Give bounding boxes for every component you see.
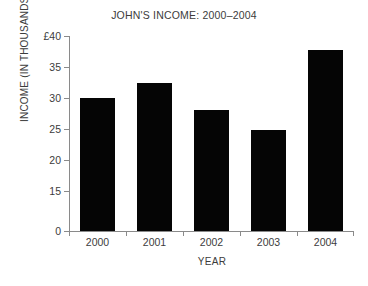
plot-area: £4035302520150 20002001200220032004 — [69, 34, 354, 232]
bar-2003 — [251, 130, 286, 231]
x-tick-label-2004: 2004 — [314, 236, 337, 248]
y-tick-label: 20 — [49, 154, 61, 166]
x-tick-label-2003: 2003 — [257, 236, 280, 248]
x-tick-label-2000: 2000 — [86, 236, 109, 248]
y-tick-mark — [64, 191, 70, 192]
bar-chart: JOHN'S INCOME: 2000–2004 INCOME (IN THOU… — [0, 0, 368, 286]
bar-2004 — [308, 50, 343, 231]
bar-2001 — [137, 83, 172, 232]
x-tick-mark — [353, 231, 354, 236]
y-tick-label: 15 — [49, 185, 61, 197]
y-tick-mark — [64, 98, 70, 99]
x-tick-mark — [240, 231, 241, 236]
y-tick-mark — [64, 160, 70, 161]
y-axis-title: INCOME (IN THOUSANDS) — [19, 0, 30, 148]
bar-2000 — [80, 98, 115, 231]
x-axis-line — [69, 231, 354, 232]
x-axis-title: YEAR — [68, 256, 356, 267]
y-tick-mark — [64, 36, 70, 37]
y-tick-label: 25 — [49, 123, 61, 135]
y-tick-label: 30 — [49, 92, 61, 104]
y-tick-label: £40 — [43, 30, 61, 42]
y-tick-mark — [64, 129, 70, 130]
x-tick-mark — [69, 231, 70, 236]
bar-2002 — [194, 110, 229, 231]
x-tick-mark — [297, 231, 298, 236]
y-tick-label: 35 — [49, 61, 61, 73]
x-tick-label-2001: 2001 — [143, 236, 166, 248]
chart-title: JOHN'S INCOME: 2000–2004 — [0, 9, 368, 21]
x-tick-label-2002: 2002 — [200, 236, 223, 248]
y-tick-label: 0 — [55, 225, 61, 237]
x-tick-mark — [126, 231, 127, 236]
y-tick-mark — [64, 67, 70, 68]
y-axis-line — [69, 36, 70, 232]
x-tick-mark — [183, 231, 184, 236]
